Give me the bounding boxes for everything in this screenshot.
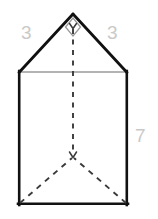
hidden-diagonal-left: [20, 158, 72, 203]
label-left-leg: 3: [21, 23, 32, 42]
geometry-figure-container: 3 3 7: [0, 0, 158, 219]
hidden-diagonal-right: [74, 158, 126, 203]
roof-right-edge: [73, 14, 127, 73]
label-prism-height: 7: [135, 126, 146, 145]
apex-arrow-tick-icon: [70, 24, 77, 29]
label-right-leg: 3: [107, 23, 118, 42]
hidden-vertex-arrow-tick-icon: [70, 152, 77, 158]
